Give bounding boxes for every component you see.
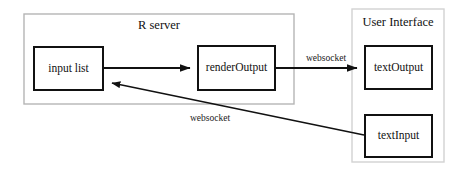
node-text-output[interactable]: textOutput xyxy=(365,46,432,89)
input-list-label: input list xyxy=(48,62,89,75)
r-server-title: R server xyxy=(138,18,181,32)
edge-render-output-to-text-output: websocket xyxy=(276,53,357,68)
text-output-label: textOutput xyxy=(374,61,424,74)
node-input-list[interactable]: input list xyxy=(34,47,103,90)
node-text-input[interactable]: textInput xyxy=(365,115,432,157)
architecture-diagram: R server User Interface websocket websoc… xyxy=(0,0,468,176)
render-output-label: renderOutput xyxy=(206,61,268,74)
node-render-output[interactable]: renderOutput xyxy=(198,46,275,90)
user-interface-title: User Interface xyxy=(362,15,434,29)
edge-label-websocket-in: websocket xyxy=(190,113,230,123)
text-input-label: textInput xyxy=(378,129,420,142)
diagram-canvas: R server User Interface websocket websoc… xyxy=(0,0,468,176)
edge-label-websocket-out: websocket xyxy=(306,53,346,63)
